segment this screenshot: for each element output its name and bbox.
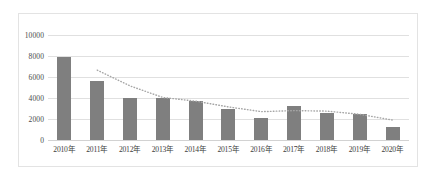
bar-2011年[interactable] <box>90 81 104 140</box>
bar-slot <box>311 35 344 140</box>
x-tick-label-2014年: 2014年 <box>179 143 212 154</box>
bar-2017年[interactable] <box>287 106 301 140</box>
x-tick-label-2016年: 2016年 <box>245 143 278 154</box>
bar-slot <box>48 35 81 140</box>
x-tick-label-2010年: 2010年 <box>48 143 81 154</box>
x-tick-label-2020年: 2020年 <box>376 143 409 154</box>
bar-2019年[interactable] <box>353 114 367 140</box>
chart-frame: 0200040006000800010000 2010年2011年2012年20… <box>18 13 418 167</box>
bar-slot <box>114 35 147 140</box>
x-tick-label-2012年: 2012年 <box>114 143 147 154</box>
x-tick-label-2017年: 2017年 <box>278 143 311 154</box>
bar-2013年[interactable] <box>156 98 170 140</box>
bar-series-group <box>48 35 409 140</box>
x-tick-label-2015年: 2015年 <box>212 143 245 154</box>
bar-slot <box>343 35 376 140</box>
plot-area: 0200040006000800010000 <box>48 35 409 140</box>
x-tick-label-2013年: 2013年 <box>146 143 179 154</box>
bar-2018年[interactable] <box>320 113 334 140</box>
bar-slot <box>179 35 212 140</box>
bar-slot <box>81 35 114 140</box>
x-axis-tick-labels: 2010年2011年2012年2013年2014年2015年2016年2017年… <box>48 143 409 159</box>
bar-2016年[interactable] <box>254 118 268 140</box>
bar-slot <box>278 35 311 140</box>
bar-slot <box>146 35 179 140</box>
bar-2014年[interactable] <box>189 101 203 140</box>
y-tick-label-4000: 4000 <box>29 94 44 103</box>
y-tick-label-10000: 10000 <box>25 31 44 40</box>
x-tick-label-2019年: 2019年 <box>343 143 376 154</box>
y-tick-label-2000: 2000 <box>29 115 44 124</box>
bar-2010年[interactable] <box>57 57 71 140</box>
gridline-0 <box>48 140 409 141</box>
x-tick-label-2018年: 2018年 <box>311 143 344 154</box>
y-tick-label-8000: 8000 <box>29 52 44 61</box>
bar-slot <box>376 35 409 140</box>
y-tick-label-0: 0 <box>40 136 44 145</box>
bar-2012年[interactable] <box>123 98 137 140</box>
x-tick-label-2011年: 2011年 <box>81 143 114 154</box>
bar-slot <box>212 35 245 140</box>
bar-slot <box>245 35 278 140</box>
bar-2020年[interactable] <box>386 127 400 140</box>
bar-2015年[interactable] <box>221 109 235 140</box>
y-tick-label-6000: 6000 <box>29 73 44 82</box>
